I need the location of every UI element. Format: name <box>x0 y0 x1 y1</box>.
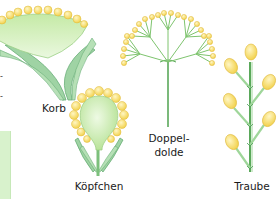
label-traube: Traube <box>228 180 276 193</box>
left-text-fragment: - <box>0 72 3 82</box>
label-doppeldolde-line1: Doppel- <box>145 132 193 145</box>
side-info-box <box>0 131 11 199</box>
label-koepfchen: Köpfchen <box>74 180 124 193</box>
inflorescence-diagram: - - Korb Köpfchen Doppel- dolde Traube <box>0 0 280 199</box>
traube-figure <box>221 44 278 172</box>
label-doppeldolde-line2: dolde <box>145 146 193 159</box>
korb-figure <box>0 6 96 100</box>
koepfchen-figure <box>70 87 129 177</box>
label-korb: Korb <box>34 102 74 115</box>
left-text-fragment: - <box>0 92 3 102</box>
